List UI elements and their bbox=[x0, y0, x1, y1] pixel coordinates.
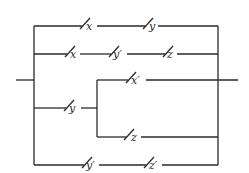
switch-label: z bbox=[130, 131, 137, 144]
switch-label: y bbox=[148, 20, 156, 33]
branch-3a: x′ bbox=[97, 72, 238, 87]
branch-4: y′ z′ bbox=[34, 157, 218, 172]
switch-label: x bbox=[70, 48, 77, 61]
switch-label: z′ bbox=[148, 159, 158, 172]
switch-label: z bbox=[166, 48, 173, 61]
switching-circuit-diagram: x y x y′ z y x′ bbox=[0, 0, 249, 173]
switch-label: x bbox=[86, 20, 93, 33]
branch-3: y x′ z bbox=[34, 72, 238, 144]
branch-3b: z bbox=[97, 129, 218, 144]
switch-label: y′ bbox=[112, 48, 122, 61]
branch-2: x y′ z bbox=[34, 46, 218, 61]
switch-label: y bbox=[68, 102, 76, 115]
branch-1: x y bbox=[34, 18, 218, 33]
switch-label: x′ bbox=[131, 74, 140, 87]
switch-label: y′ bbox=[85, 159, 95, 172]
